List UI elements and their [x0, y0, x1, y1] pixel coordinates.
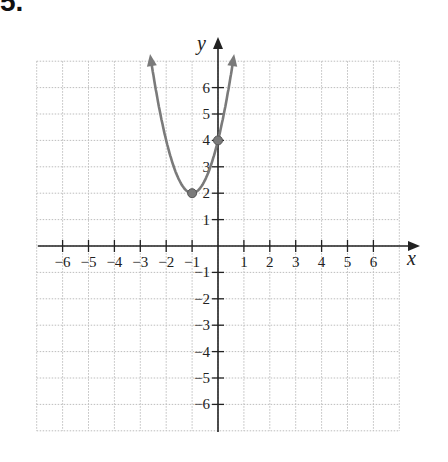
y-tick-label: −4: [194, 344, 210, 360]
x-tick-label: 4: [318, 254, 326, 270]
x-tick-label: 5: [344, 254, 352, 270]
vertex-point: [188, 189, 197, 198]
y-tick-label: 5: [203, 106, 211, 122]
y-intercept-point: [214, 136, 223, 145]
y-tick-label: −1: [194, 264, 210, 280]
x-tick-label: −6: [55, 254, 71, 270]
x-axis-label: x: [406, 247, 416, 269]
y-tick-label: −6: [194, 396, 210, 412]
x-tick-label: −4: [106, 254, 122, 270]
y-tick-label: 4: [203, 132, 211, 148]
y-tick-label: −5: [194, 370, 210, 386]
curve-arrow-icon: [227, 54, 237, 67]
coordinate-plane-chart: xy−6−5−4−3−2−1123456−6−5−4−3−2−1123456: [0, 0, 448, 462]
y-tick-label: 6: [203, 80, 211, 96]
x-tick-label: 1: [240, 254, 248, 270]
x-tick-label: −2: [158, 254, 174, 270]
x-tick-label: 2: [266, 254, 274, 270]
y-axis-label: y: [195, 32, 206, 55]
x-tick-label: 3: [292, 254, 300, 270]
y-tick-label: −2: [194, 291, 210, 307]
x-tick-label: 6: [370, 254, 378, 270]
x-tick-label: −5: [81, 254, 97, 270]
curve-arrow-icon: [147, 54, 157, 67]
y-tick-label: 2: [203, 185, 211, 201]
y-tick-label: −3: [194, 317, 210, 333]
y-tick-label: 1: [203, 212, 211, 228]
x-tick-label: −3: [132, 254, 148, 270]
y-axis-arrow-icon: [213, 37, 223, 49]
